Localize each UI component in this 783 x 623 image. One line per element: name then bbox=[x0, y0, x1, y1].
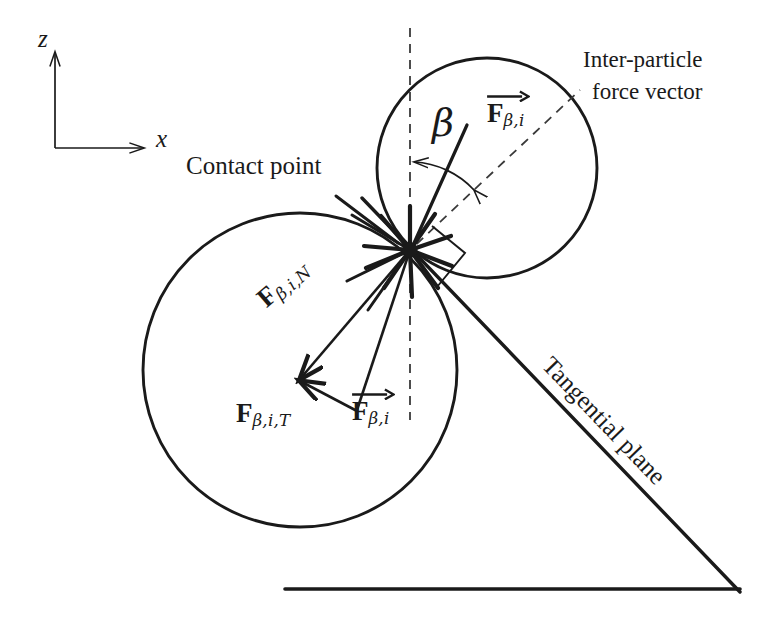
force-resultant-label: F β,i bbox=[352, 398, 389, 427]
vector-arrow-icon bbox=[351, 386, 395, 401]
contact-point-dot bbox=[402, 242, 417, 257]
tangential-force-arrow bbox=[300, 381, 357, 411]
force-resultant-top-label: F β,i bbox=[487, 100, 524, 129]
beta-angle-label: β bbox=[432, 104, 454, 142]
force-resultant-symbol: F bbox=[352, 398, 369, 425]
normal-force-arrow bbox=[300, 250, 410, 379]
figure-canvas: z x Contact point Inter-particle force v… bbox=[0, 0, 783, 623]
axis-label-z: z bbox=[38, 26, 48, 51]
force-tangential-label: Fβ,i,T bbox=[236, 400, 290, 429]
inter-particle-force-label-line2: force vector bbox=[592, 80, 702, 103]
axis-label-x: x bbox=[156, 126, 167, 151]
vector-arrow-icon bbox=[486, 88, 530, 103]
coordinate-axes bbox=[55, 52, 144, 148]
inter-particle-force-label-line1: Inter-particle bbox=[583, 48, 703, 71]
force-resultant-top-symbol: F bbox=[487, 100, 504, 127]
contact-point-label: Contact point bbox=[186, 153, 321, 178]
